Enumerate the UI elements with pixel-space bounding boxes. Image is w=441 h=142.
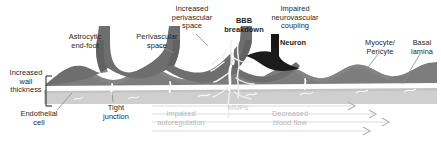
label-perivascular-space: Perivascular space	[127, 33, 187, 50]
label-myocyte-pericyte: Myocyte/ Pericyte	[357, 39, 403, 56]
label-neuron: Neuron	[273, 39, 313, 48]
label-endothelial-cell: Endothelial cell	[14, 110, 64, 127]
label-impaired-neurovascular-coupling: Impaired neurovascular coupling	[258, 5, 332, 31]
neurovascular-unit-figure: Astrocytic end-foot Perivascular space I…	[0, 0, 441, 142]
label-basal-lamina: Basal lamina	[404, 39, 440, 56]
label-increased-wall-thickness: Increased wall thickness	[3, 69, 49, 95]
flow-arrow-4	[152, 127, 370, 135]
label-decreased-blood-flow: Decreased blood flow	[262, 110, 318, 127]
label-tight-junction: Tight junction	[95, 104, 137, 121]
label-increased-perivascular-space: Increased perivascular space	[161, 5, 223, 31]
label-mmps: MMPs	[224, 104, 252, 113]
label-impaired-autoregulation: Impaired autoregulation	[146, 110, 216, 127]
label-astrocytic-end-foot: Astrocytic end-foot	[57, 33, 113, 50]
